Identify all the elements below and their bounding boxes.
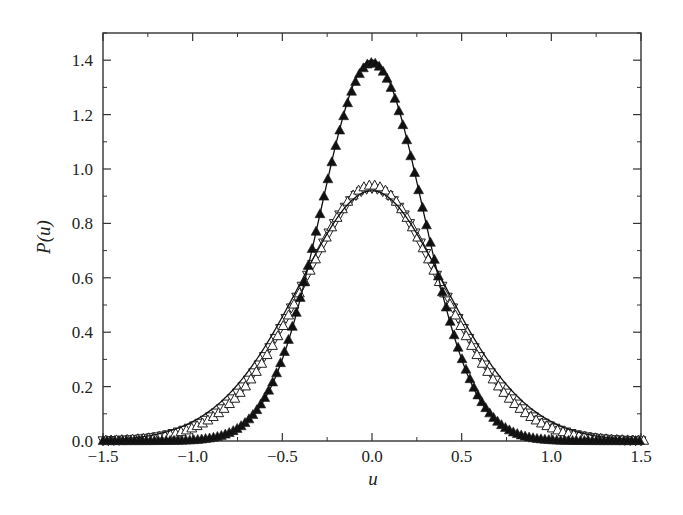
y-tick-label: 1.0 (72, 160, 93, 179)
data-series (98, 58, 649, 446)
x-tick-label: 1.5 (630, 447, 651, 466)
x-tick-label: −0.5 (267, 447, 298, 466)
axis-labels: −1.5−1.0−0.50.00.51.01.50.00.20.40.60.81… (72, 51, 652, 466)
y-tick-label: 1.4 (72, 51, 94, 70)
plot-border (103, 33, 641, 441)
y-tick-label: 0.2 (72, 378, 93, 397)
x-tick-label: 0.0 (361, 447, 382, 466)
axis-ticks (103, 33, 641, 441)
plot-frame (103, 33, 641, 441)
x-tick-label: 0.5 (451, 447, 472, 466)
x-tick-label: 1.0 (541, 447, 562, 466)
y-tick-label: 1.2 (72, 106, 93, 125)
y-tick-label: 0.4 (72, 323, 94, 342)
y-axis-title: P(u) (33, 220, 55, 255)
chart: −1.5−1.0−0.50.00.51.01.50.00.20.40.60.81… (0, 0, 683, 515)
x-axis-title: u (368, 468, 378, 489)
y-tick-label: 0.6 (72, 269, 93, 288)
y-tick-label: 0.8 (72, 214, 93, 233)
x-tick-label: −1.0 (177, 447, 208, 466)
fit-line-broad (103, 191, 641, 440)
fit-line-narrow (103, 60, 641, 441)
y-tick-label: 0.0 (72, 432, 93, 451)
